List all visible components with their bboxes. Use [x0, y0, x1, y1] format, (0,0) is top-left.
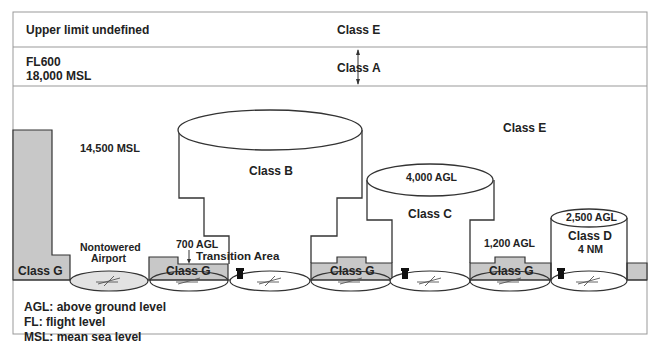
agl-1200-label: 1,200 AGL: [484, 237, 536, 249]
airspace-diagram: Upper limit undefined Class E FL600 18,0…: [0, 0, 660, 361]
agl-700-label: 700 AGL: [176, 238, 219, 250]
fl600-label: FL600: [26, 55, 61, 69]
class-c-label: Class C: [408, 207, 452, 221]
upper-limit-label: Upper limit undefined: [26, 23, 149, 37]
class-d-ceiling-label: 2,500 AGL: [566, 211, 618, 223]
nontowered-label-2: Airport: [91, 252, 127, 264]
legend-msl: MSL: mean sea level: [24, 330, 141, 344]
msl-18000-label: 18,000 MSL: [26, 69, 91, 83]
class-b-label: Class B: [249, 164, 293, 178]
class-g-label-3: Class G: [330, 264, 375, 278]
msl-14500-label: 14,500 MSL: [80, 142, 140, 154]
class-d-label: Class D: [568, 229, 612, 243]
class-e-label: Class E: [503, 121, 546, 135]
class-d-radius-label: 4 NM: [578, 243, 603, 255]
class-a-label: Class A: [337, 61, 381, 75]
legend-agl: AGL: above ground level: [24, 300, 166, 314]
class-e-top-label: Class E: [337, 23, 380, 37]
legend-fl: FL: flight level: [24, 315, 105, 329]
class-g-label-1: Class G: [18, 264, 63, 278]
class-g-label-4: Class G: [489, 264, 534, 278]
class-c-ceiling-label: 4,000 AGL: [406, 171, 458, 183]
class-g-label-2: Class G: [166, 264, 211, 278]
transition-area-label: Transition Area: [196, 250, 280, 262]
